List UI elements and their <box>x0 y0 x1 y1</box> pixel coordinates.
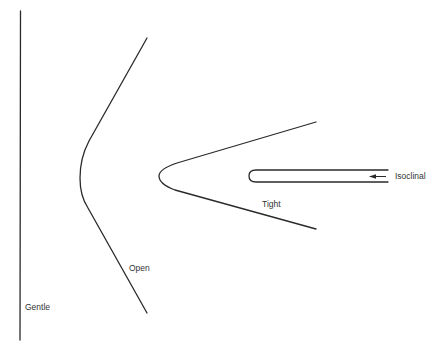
gentle-fold-line <box>20 11 21 340</box>
arrow-left-icon <box>369 174 386 178</box>
fold-diagram <box>0 0 443 357</box>
tight-fold-line <box>159 122 316 229</box>
isoclinal-label: Isoclinal <box>395 172 426 181</box>
isoclinal-fold-line <box>249 170 388 182</box>
gentle-label: Gentle <box>25 303 50 312</box>
open-label: Open <box>129 264 150 273</box>
tight-label: Tight <box>262 200 281 209</box>
